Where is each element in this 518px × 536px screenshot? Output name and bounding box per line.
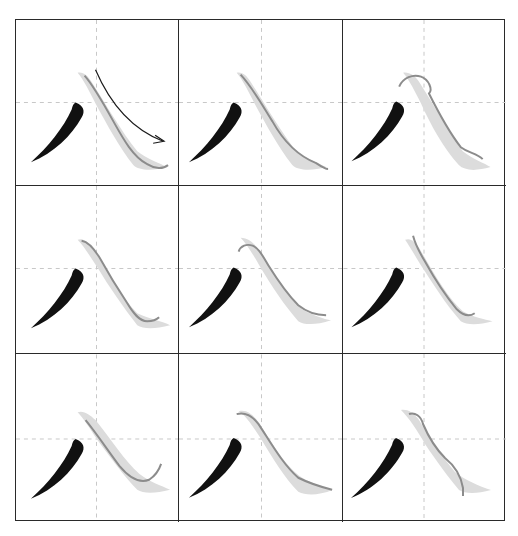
grid-cell-4 [16,186,179,354]
trace-stroke-na-fill [78,412,170,493]
left-stroke-pie [189,268,242,328]
left-stroke-pie [351,268,404,328]
grid-cell-9 [343,354,506,522]
trace-stroke-na-line [413,236,475,316]
practice-grid [15,19,505,521]
trace-stroke-na-fill [401,410,491,493]
trace-stroke-na-fill [78,239,170,328]
left-stroke-pie [189,438,242,498]
grid-cell-3 [343,20,506,186]
character-ba-drawing [179,354,342,522]
character-ba-drawing [343,354,506,522]
character-ba-drawing [179,20,342,185]
grid-cell-6 [343,186,506,354]
left-stroke-pie [351,102,404,162]
trace-stroke-na-fill [241,238,331,324]
character-ba-drawing [179,186,342,353]
left-stroke-pie [31,103,84,163]
trace-stroke-na-line [237,414,332,490]
grid-cell-2 [179,20,343,186]
left-stroke-pie [31,269,84,329]
grid-cell-7 [16,354,179,522]
grid-cell-1 [16,20,179,186]
character-ba-drawing [343,186,506,353]
trace-stroke-na-fill [405,239,492,324]
trace-stroke-na-fill [78,73,167,170]
trace-stroke-na-line [399,76,482,159]
left-stroke-pie [189,103,242,163]
character-ba-drawing [343,20,506,185]
grid-cell-8 [179,354,343,522]
left-stroke-pie [351,438,404,498]
character-ba-drawing [16,20,178,185]
trace-stroke-na-fill [239,411,333,495]
character-ba-drawing [16,354,178,522]
grid-cell-5 [179,186,343,354]
trace-stroke-na-line [239,245,326,315]
character-ba-drawing [16,186,178,353]
left-stroke-pie [31,439,84,499]
